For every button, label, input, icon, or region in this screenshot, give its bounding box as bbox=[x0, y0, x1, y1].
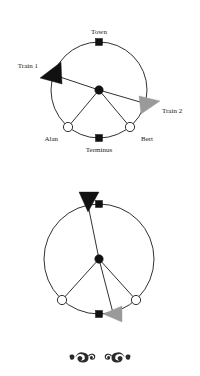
train-2-marker-top bbox=[139, 96, 160, 114]
station-alan-top bbox=[63, 122, 72, 131]
train-2-marker-bottom bbox=[103, 306, 122, 322]
station-town-top bbox=[96, 39, 103, 46]
spoke-hub-to-bert-top bbox=[99, 90, 130, 127]
railway-loop-figure: Town Alan Bert Terminus Train 1 Train 2 bbox=[0, 0, 200, 376]
label-bert-top: Bert bbox=[141, 135, 153, 143]
spoke-hub-to-alan-bottom bbox=[62, 259, 99, 300]
fleuron-ornament bbox=[69, 352, 130, 362]
station-bert-bottom bbox=[131, 295, 140, 304]
train-1-marker-top bbox=[40, 62, 62, 84]
panel-bottom bbox=[44, 192, 154, 322]
label-train1-top: Train 1 bbox=[18, 62, 39, 70]
panel-top: Town Alan Bert Terminus Train 1 Train 2 bbox=[18, 28, 183, 154]
station-bert-top bbox=[125, 122, 134, 131]
label-alan-top: Alan bbox=[44, 135, 58, 143]
figure-root: Town Alan Bert Terminus Train 1 Train 2 bbox=[0, 0, 200, 376]
hub-node-top bbox=[95, 86, 103, 94]
label-town-top: Town bbox=[91, 28, 107, 36]
hub-node-bottom bbox=[95, 255, 103, 263]
label-train2-top: Train 2 bbox=[162, 107, 183, 115]
station-alan-bottom bbox=[57, 295, 66, 304]
spoke-hub-to-alan-top bbox=[68, 90, 99, 127]
station-town-bottom bbox=[96, 201, 103, 208]
station-terminus-bottom bbox=[96, 311, 103, 318]
label-terminus-top: Terminus bbox=[86, 146, 113, 154]
spoke-hub-to-train1-bottom bbox=[88, 205, 99, 259]
station-terminus-top bbox=[96, 135, 103, 142]
